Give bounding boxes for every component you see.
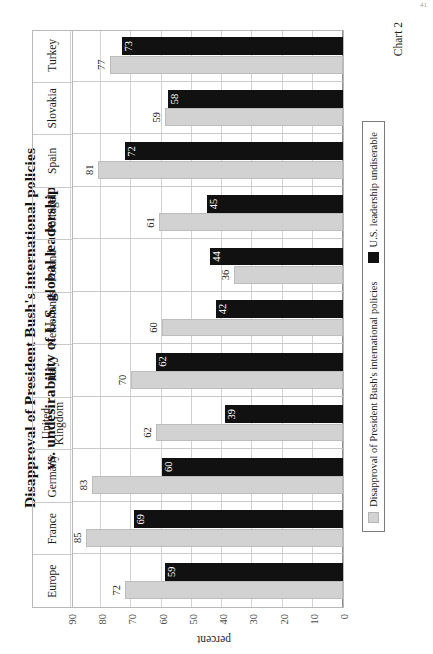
category-label-cell: France	[33, 502, 72, 555]
bar-leadership[interactable]: 73	[122, 37, 343, 55]
value-tick-label: 80	[97, 614, 108, 625]
bar-policies[interactable]: 70	[131, 371, 343, 389]
page-number: 41	[420, 1, 427, 9]
category-label: France	[46, 512, 59, 545]
category-separator	[73, 186, 343, 187]
value-axis-title: percent	[114, 634, 314, 646]
chart-caption: Chart 2	[392, 22, 404, 56]
legend-swatch-icon	[368, 252, 379, 263]
bar-value-label: 70	[117, 375, 128, 386]
legend-item[interactable]: Disapproval of President Bush's internat…	[368, 281, 379, 523]
bar-leadership[interactable]: 42	[216, 300, 343, 318]
value-tick-label: 50	[187, 614, 198, 625]
bar-policies[interactable]: 62	[156, 424, 343, 442]
bar-value-label: 58	[169, 94, 180, 105]
bar-value-label: 73	[123, 41, 134, 52]
bar-value-label: 44	[211, 251, 222, 262]
category-label-cell: Poland	[33, 239, 72, 292]
bar-leadership[interactable]: 60	[162, 458, 343, 476]
category-label-band: EuropeFranceGermanyUnited KingdomItalyNe…	[32, 30, 72, 608]
category-label: Germany	[46, 454, 59, 499]
category-separator	[73, 448, 343, 449]
category-label: Slovakia	[46, 87, 59, 129]
value-tick-label: 30	[248, 614, 259, 625]
bar-value-label: 81	[84, 165, 95, 176]
value-tick-label: 60	[157, 614, 168, 625]
bar-leadership[interactable]: 58	[168, 90, 343, 108]
bar-leadership[interactable]: 72	[125, 142, 343, 160]
bar-leadership[interactable]: 39	[225, 405, 343, 423]
bar-policies[interactable]: 77	[110, 56, 343, 74]
category-label: Netherlands	[46, 290, 59, 348]
category-separator	[73, 501, 343, 502]
category-label: Italy	[46, 360, 59, 383]
category-label-cell: Slovakia	[33, 82, 72, 135]
category-separator	[73, 133, 343, 134]
bar-policies[interactable]: 72	[125, 581, 343, 599]
value-gridline	[70, 31, 71, 607]
chart-legend: Disapproval of President Bush's internat…	[362, 121, 385, 532]
bar-value-label: 83	[78, 480, 89, 491]
category-label-cell: United Kingdom	[33, 397, 72, 450]
category-label: Portugal	[46, 193, 59, 234]
value-gridline	[130, 31, 131, 607]
category-label-cell: Spain	[33, 134, 72, 187]
bar-value-label: 72	[126, 146, 137, 157]
value-tick-label: 40	[218, 614, 229, 625]
plot-area: 7259856983606239706260423644614581725958…	[72, 30, 344, 608]
value-tick-label: 20	[278, 614, 289, 625]
bar-leadership[interactable]: 62	[156, 353, 343, 371]
bar-value-label: 42	[217, 304, 228, 315]
category-label-cell: Portugal	[33, 187, 72, 240]
bar-policies[interactable]: 59	[165, 108, 343, 126]
plot-inner: 7259856983606239706260423644614581725958…	[73, 31, 343, 607]
bar-value-label: 61	[145, 217, 156, 228]
value-tick-label: 10	[308, 614, 319, 625]
bar-policies[interactable]: 83	[92, 476, 343, 494]
bar-value-label: 39	[226, 409, 237, 420]
value-axis: percent 0102030405060708090	[72, 610, 344, 642]
bar-value-label: 59	[151, 112, 162, 123]
page-root: 41 Disapproval of President Bush's inter…	[0, 0, 433, 654]
category-label: United Kingdom	[40, 398, 66, 450]
category-label-cell: Turkey	[33, 29, 72, 82]
bar-leadership[interactable]: 45	[207, 195, 343, 213]
rotated-chart-canvas: Disapproval of President Bush's internat…	[10, 14, 422, 642]
bar-policies[interactable]: 36	[234, 266, 343, 284]
bar-value-label: 62	[142, 427, 153, 438]
category-label-cell: Germany	[33, 449, 72, 502]
bar-policies[interactable]: 85	[86, 529, 343, 547]
bar-value-label: 60	[163, 461, 174, 472]
value-tick-label: 70	[127, 614, 138, 625]
category-label: Spain	[46, 147, 59, 175]
bar-leadership[interactable]: 44	[210, 248, 343, 266]
category-separator	[73, 291, 343, 292]
bar-value-label: 69	[135, 514, 146, 525]
value-gridline	[100, 31, 101, 607]
bar-policies[interactable]: 81	[98, 161, 343, 179]
category-label: Turkey	[46, 38, 59, 73]
category-separator	[73, 396, 343, 397]
legend-item[interactable]: U.S. leadership undiserable	[368, 132, 379, 263]
bar-value-label: 85	[72, 532, 83, 543]
bar-leadership[interactable]: 59	[165, 563, 343, 581]
figure-border: Disapproval of President Bush's internat…	[10, 14, 422, 642]
bar-value-label: 72	[111, 585, 122, 596]
bar-policies[interactable]: 61	[159, 213, 343, 231]
bar-value-label: 62	[157, 356, 168, 367]
bar-leadership[interactable]: 69	[134, 510, 343, 528]
bar-policies[interactable]: 60	[162, 319, 343, 337]
legend-label: U.S. leadership undiserable	[368, 132, 379, 247]
category-separator	[73, 238, 343, 239]
category-label: Poland	[46, 249, 59, 283]
category-separator	[73, 343, 343, 344]
bar-value-label: 45	[208, 199, 219, 210]
value-tick-label: 90	[67, 614, 78, 625]
legend-label: Disapproval of President Bush's internat…	[368, 281, 379, 507]
value-tick-label: 0	[339, 614, 350, 619]
bar-value-label: 59	[166, 567, 177, 578]
category-label-cell: Netherlands	[33, 292, 72, 345]
category-separator	[73, 81, 343, 82]
category-label-cell: Italy	[33, 344, 72, 397]
bar-value-label: 77	[96, 59, 107, 70]
